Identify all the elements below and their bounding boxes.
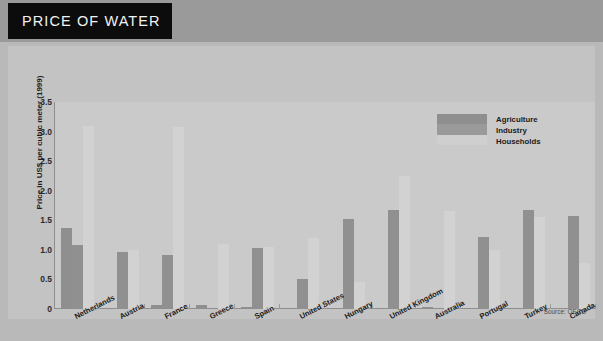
bar-industry	[72, 245, 83, 309]
bars	[145, 102, 190, 309]
bar-households	[444, 211, 455, 309]
legend-label-industry: Industry	[496, 125, 541, 136]
bars	[235, 102, 280, 309]
bar-households	[218, 244, 229, 309]
bars	[190, 102, 235, 309]
legend-label-households: Households	[496, 136, 541, 147]
bar-group	[100, 102, 145, 309]
bar-industry	[523, 210, 534, 309]
bar-industry	[478, 237, 489, 309]
chart-panel: 00.51.01.52.02.53.03.5 Price in US$ per …	[8, 46, 595, 319]
legend-label-agriculture: Agriculture	[496, 114, 541, 125]
header-band: PRICE OF WATER	[0, 0, 603, 42]
bars	[371, 102, 416, 309]
bar-households	[128, 250, 139, 309]
bars	[551, 102, 596, 309]
bar-group	[55, 102, 100, 309]
legend-swatch	[437, 114, 487, 145]
bar-industry	[162, 255, 173, 309]
page-title: PRICE OF WATER	[8, 13, 161, 29]
title-box: PRICE OF WATER	[8, 3, 172, 39]
legend-labels: Agriculture Industry Households	[496, 114, 541, 147]
bar-households	[83, 126, 94, 309]
bar-group	[551, 102, 596, 309]
bar-group	[145, 102, 190, 309]
bar-group	[190, 102, 235, 309]
x-axis-labels: NetherlandsAustriaFranceGreeceSpainUnite…	[54, 309, 595, 341]
y-tick-label: 1.0	[40, 245, 52, 255]
bar-group	[325, 102, 370, 309]
bar-industry	[297, 279, 308, 309]
bar-households	[263, 247, 274, 309]
source-note: Source: OECD	[544, 308, 586, 315]
legend: Agriculture Industry Households	[437, 114, 541, 147]
y-tick-label: 0.5	[40, 274, 52, 284]
bar-agriculture	[61, 228, 72, 309]
bar-industry	[388, 210, 399, 309]
y-axis-title: Price in US$ per cubic meter (1999)	[35, 68, 44, 218]
legend-swatch-agriculture	[437, 114, 487, 124]
bars	[280, 102, 325, 309]
bar-households	[308, 238, 319, 309]
bar-industry	[343, 219, 354, 309]
bar-households	[534, 217, 545, 309]
bar-households	[399, 176, 410, 309]
bar-group	[280, 102, 325, 309]
bar-households	[173, 127, 184, 309]
bar-industry	[252, 248, 263, 310]
legend-swatch-households	[437, 135, 487, 145]
bars	[325, 102, 370, 309]
bar-group	[371, 102, 416, 309]
bar-industry	[568, 216, 579, 309]
chart-page: PRICE OF WATER 00.51.01.52.02.53.03.5 Pr…	[0, 0, 603, 341]
legend-swatch-industry	[437, 124, 487, 134]
bar-households	[489, 250, 500, 309]
bar-industry	[117, 252, 128, 309]
bars	[100, 102, 145, 309]
bars	[55, 102, 100, 309]
bar-group	[235, 102, 280, 309]
y-tick-label: 0	[47, 304, 52, 314]
